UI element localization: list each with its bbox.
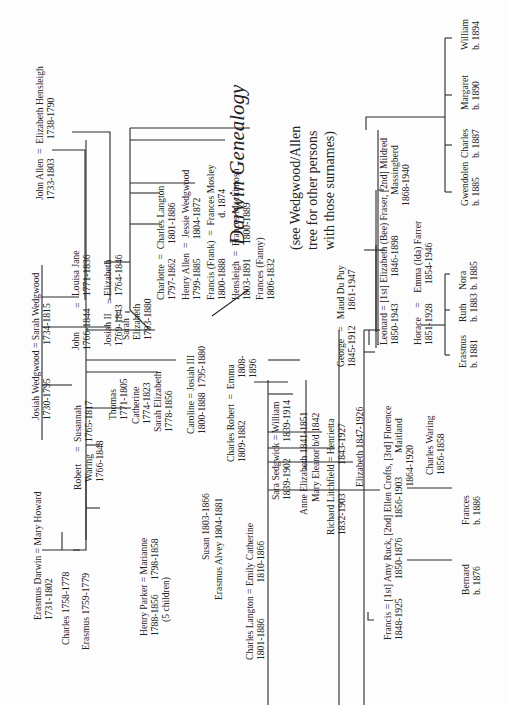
- person-charles-robert-darwin: Charles Robert = Emma1809-1882: [225, 364, 247, 462]
- person-frances-1886: Francesb. 1886: [460, 495, 482, 525]
- person-anne-elizabeth: Anne Elizabeth 1841-1851: [298, 412, 309, 515]
- marriage-sign: =: [104, 299, 115, 304]
- person-leonard: Leonard = [1st] Elizabeth (Bee) Fraser, …: [378, 138, 411, 345]
- person-margaret: Margaretb. 1890: [459, 75, 481, 110]
- person-francis-1848: Francis = [1st] Amy Ruck, [2nd] Ellen Cr…: [382, 406, 415, 640]
- person-sarah-elizabeth-darwin: Sarah Elizabeth1778-1856: [152, 372, 174, 432]
- person-charles-langton-emily: Charles Langton = Emily Catherine1801-18…: [244, 523, 266, 660]
- person-elizabeth-1847: Elizabeth 1847-1926: [354, 407, 365, 487]
- person-charles-waring: Charles Waring1856-1858: [424, 415, 446, 475]
- person-louisa-jane: Louisa Jane1771-1836: [70, 250, 92, 296]
- person-charlotte-langton: Charlotte = Charles Langton1797-1862 180…: [155, 186, 177, 300]
- person-elizabeth-allen: Elizabeth1764-1846: [102, 254, 124, 296]
- person-henry-parker-marianne: Henry Parker = Marianne1788-1856 1798-18…: [138, 538, 171, 636]
- person-sarah-elizabeth-wedgwood: SarahElizabeth1793-1880: [120, 298, 153, 340]
- person-hensleigh: Hensleigh = Frances Mackintosh1803-1891 …: [230, 169, 252, 300]
- person-gwendolen: Gwendolenb. 1885: [459, 162, 481, 206]
- person-henry-allen-jessie: Henry Allen = Jessie Wedgwood1799-1885 1…: [180, 170, 202, 300]
- person-william-1894: Williamb. 1894: [459, 19, 481, 50]
- person-charles-1887: Charlesb. 1887: [459, 129, 481, 158]
- chart-subtitle: (see Wedgwood/Allentree for other person…: [253, 126, 372, 250]
- person-horace-emma-farrer: Horace = Emma (Ida) Farrer1851-1928 1854…: [412, 221, 434, 345]
- marriage-sign: =: [72, 447, 83, 452]
- person-caroline-josiah-iii: Caroline = Josiah III1800-1888 1795-1880: [185, 346, 207, 434]
- person-susannah: Susannah1765-1817: [72, 400, 94, 442]
- person-george-maud: George = Maud Du Puy1845-1912 1861-1947: [335, 265, 357, 367]
- person-ruth: Ruthb. 1883: [457, 293, 479, 322]
- person-erasmus-1759: Erasmus 1759-1779: [80, 573, 91, 650]
- person-nora: Norab. 1885: [457, 261, 479, 290]
- person-sara-sedgwick-william: Sara Sedgwick = William1839-1902 1839-19…: [270, 400, 292, 500]
- person-susan: Susan 1803-1866: [200, 493, 211, 560]
- person-emma-dates: 1808-1896: [236, 356, 258, 378]
- person-frances-fanny: Frances (Fanny)1806-1832: [254, 237, 276, 300]
- person-bernard: Bernardb. 1876: [460, 564, 482, 595]
- person-erasmus-alvey: Erasmus Alvey 1804-1881: [213, 498, 224, 600]
- person-erasmus-1881: Erasmusb. 1881: [457, 335, 479, 368]
- person-allen-couple: John Allen = Elizabeth Hensleigh1733-180…: [34, 66, 56, 200]
- genealogy-chart: Darwin Genealogy (see Wedgwood/Allentree…: [0, 0, 507, 705]
- person-catherine: Catherine1774-1823: [130, 382, 152, 424]
- marriage-sign: =: [72, 303, 83, 308]
- person-thomas: Thomas1771-1805: [107, 378, 129, 420]
- person-john: John1766-1844: [70, 308, 92, 350]
- person-erasmus-darwin-couple: Erasmus Darwin = Mary Howard1731-1802: [32, 492, 54, 621]
- person-mary-eleanor: Mary Eleanor b/d 1842: [310, 413, 321, 502]
- person-charles-1758: Charles 1758-1778: [60, 572, 71, 645]
- person-francis-frank: Francis (Frank) = Frances Mosley1800-188…: [205, 165, 227, 300]
- person-wedgwood-couple: Josiah Wedgwood = Sarah Wedgwood1730-179…: [30, 273, 52, 420]
- person-richard-litchfield-henrietta: Richard Litchfield = Henrietta1832-1903 …: [325, 419, 347, 536]
